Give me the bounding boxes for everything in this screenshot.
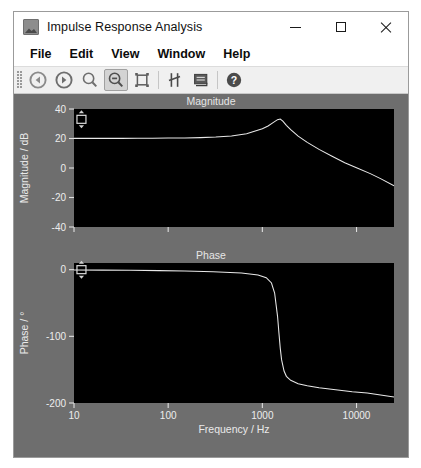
zoom-out-icon xyxy=(107,71,125,89)
help-icon: ? xyxy=(225,71,243,89)
close-button[interactable] xyxy=(363,12,408,42)
svg-text:100: 100 xyxy=(160,410,177,421)
svg-text:40: 40 xyxy=(55,104,67,115)
minimize-icon xyxy=(290,27,301,28)
back-button[interactable] xyxy=(26,69,50,91)
plot-canvas[interactable]: Magnitude -40-2002040 Magnitude / dB Pha… xyxy=(14,94,408,457)
svg-text:0: 0 xyxy=(60,264,66,275)
phase-title: Phase xyxy=(196,249,226,261)
zoom-in-icon xyxy=(81,71,99,89)
legend-button[interactable] xyxy=(189,69,213,91)
window-title: Impulse Response Analysis xyxy=(47,20,273,34)
window-controls xyxy=(273,12,408,42)
svg-text:20: 20 xyxy=(55,133,67,144)
menu-item-edit[interactable]: Edit xyxy=(61,45,103,63)
menu-item-file[interactable]: File xyxy=(21,45,61,63)
title-bar: Impulse Response Analysis xyxy=(14,12,408,42)
svg-text:-200: -200 xyxy=(46,398,66,409)
forward-button[interactable] xyxy=(52,69,76,91)
menu-bar: File Edit View Window Help xyxy=(14,42,408,66)
toolbar-grip[interactable] xyxy=(17,71,22,89)
magnitude-subplot: Magnitude -40-2002040 Magnitude / dB xyxy=(18,95,394,233)
menu-item-help[interactable]: Help xyxy=(214,45,259,63)
svg-text:-20: -20 xyxy=(52,192,67,203)
toolbar-separator-2 xyxy=(217,71,218,89)
svg-text:10: 10 xyxy=(68,410,80,421)
bode-plot-figure: Magnitude -40-2002040 Magnitude / dB Pha… xyxy=(14,94,408,457)
svg-text:-40: -40 xyxy=(52,222,67,233)
svg-text:10000: 10000 xyxy=(343,410,371,421)
toolbar-separator xyxy=(158,71,159,89)
svg-text:-100: -100 xyxy=(46,331,66,342)
phase-plot-background xyxy=(74,263,394,403)
magnitude-plot-background xyxy=(74,109,394,227)
menu-item-window[interactable]: Window xyxy=(148,45,214,63)
picture-icon xyxy=(23,19,39,35)
svg-text:0: 0 xyxy=(60,163,66,174)
legend-icon xyxy=(192,71,210,89)
magnitude-title: Magnitude xyxy=(186,95,235,107)
screenshot-root: Impulse Response Analysis File Edit View… xyxy=(0,0,421,468)
close-icon xyxy=(379,21,392,34)
maximize-icon xyxy=(336,22,346,32)
svg-text:1000: 1000 xyxy=(251,410,274,421)
cursor-button[interactable] xyxy=(163,69,187,91)
cursor-icon xyxy=(166,71,184,89)
magnitude-axis-label: Magnitude / dB xyxy=(18,133,30,204)
maximize-button[interactable] xyxy=(318,12,363,42)
svg-text:?: ? xyxy=(231,74,237,86)
forward-icon xyxy=(55,71,73,89)
help-button[interactable]: ? xyxy=(222,69,246,91)
menu-item-view[interactable]: View xyxy=(102,45,148,63)
toolbar: ? xyxy=(14,66,408,94)
phase-axis-label: Phase / ° xyxy=(18,312,30,355)
application-window: Impulse Response Analysis File Edit View… xyxy=(13,11,409,458)
zoom-fit-icon xyxy=(133,71,151,89)
zoom-out-button[interactable] xyxy=(104,69,128,91)
zoom-fit-button[interactable] xyxy=(130,69,154,91)
back-icon xyxy=(29,71,47,89)
zoom-in-button[interactable] xyxy=(78,69,102,91)
frequency-axis-label: Frequency / Hz xyxy=(198,423,269,435)
minimize-button[interactable] xyxy=(273,12,318,42)
